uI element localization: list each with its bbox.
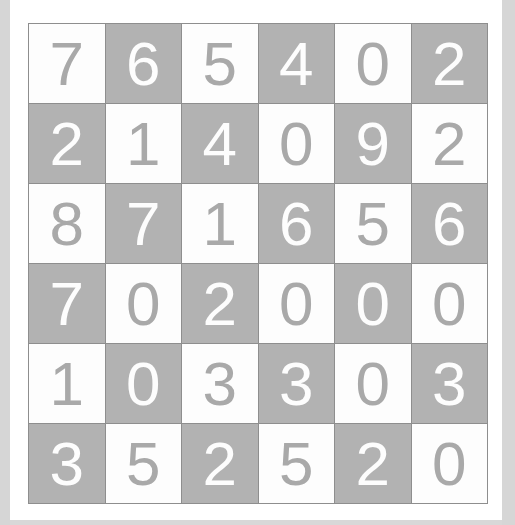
grid-cell-r5-c4[interactable]: 3 bbox=[258, 344, 335, 424]
grid-cell-r1-c6[interactable]: 2 bbox=[411, 24, 488, 104]
grid-card: 6 x 6 Grid 76540221409287165670200010330… bbox=[10, 0, 502, 520]
grid-cell-r3-c4[interactable]: 6 bbox=[258, 184, 335, 264]
grid-cell-r5-c3[interactable]: 3 bbox=[182, 344, 259, 424]
grid-row: 871656 bbox=[29, 184, 488, 264]
grid-row: 214092 bbox=[29, 104, 488, 184]
grid-cell-r2-c1[interactable]: 2 bbox=[29, 104, 106, 184]
grid-cell-r4-c1[interactable]: 7 bbox=[29, 264, 106, 344]
grid-cell-r6-c2[interactable]: 5 bbox=[105, 424, 182, 504]
digit-grid-body: 765402214092871656702000103303352520 bbox=[29, 24, 488, 504]
grid-cell-r2-c6[interactable]: 2 bbox=[411, 104, 488, 184]
grid-cell-r5-c2[interactable]: 0 bbox=[105, 344, 182, 424]
grid-cell-r3-c3[interactable]: 1 bbox=[182, 184, 259, 264]
grid-cell-r2-c5[interactable]: 9 bbox=[335, 104, 412, 184]
page-gutter-right bbox=[502, 0, 515, 525]
grid-cell-r4-c2[interactable]: 0 bbox=[105, 264, 182, 344]
grid-row: 103303 bbox=[29, 344, 488, 424]
grid-cell-r5-c6[interactable]: 3 bbox=[411, 344, 488, 424]
page-title: 6 x 6 Grid bbox=[28, 0, 95, 3]
grid-cell-r1-c3[interactable]: 5 bbox=[182, 24, 259, 104]
grid-cell-r4-c3[interactable]: 2 bbox=[182, 264, 259, 344]
grid-cell-r6-c5[interactable]: 2 bbox=[335, 424, 412, 504]
grid-cell-r1-c5[interactable]: 0 bbox=[335, 24, 412, 104]
grid-cell-r1-c4[interactable]: 4 bbox=[258, 24, 335, 104]
grid-cell-r6-c6[interactable]: 0 bbox=[411, 424, 488, 504]
page-shell: 6 x 6 Grid 76540221409287165670200010330… bbox=[0, 0, 515, 525]
grid-row: 702000 bbox=[29, 264, 488, 344]
grid-cell-r4-c6[interactable]: 0 bbox=[411, 264, 488, 344]
grid-row: 765402 bbox=[29, 24, 488, 104]
grid-cell-r3-c2[interactable]: 7 bbox=[105, 184, 182, 264]
grid-cell-r3-c6[interactable]: 6 bbox=[411, 184, 488, 264]
digit-grid: 765402214092871656702000103303352520 bbox=[28, 23, 488, 504]
grid-cell-r3-c1[interactable]: 8 bbox=[29, 184, 106, 264]
grid-cell-r2-c2[interactable]: 1 bbox=[105, 104, 182, 184]
grid-cell-r5-c5[interactable]: 0 bbox=[335, 344, 412, 424]
grid-cell-r5-c1[interactable]: 1 bbox=[29, 344, 106, 424]
grid-cell-r1-c1[interactable]: 7 bbox=[29, 24, 106, 104]
grid-row: 352520 bbox=[29, 424, 488, 504]
grid-cell-r2-c3[interactable]: 4 bbox=[182, 104, 259, 184]
page-gutter-left bbox=[0, 0, 10, 525]
grid-cell-r6-c1[interactable]: 3 bbox=[29, 424, 106, 504]
grid-cell-r1-c2[interactable]: 6 bbox=[105, 24, 182, 104]
grid-cell-r3-c5[interactable]: 5 bbox=[335, 184, 412, 264]
grid-cell-r2-c4[interactable]: 0 bbox=[258, 104, 335, 184]
grid-cell-r4-c5[interactable]: 0 bbox=[335, 264, 412, 344]
grid-cell-r6-c3[interactable]: 2 bbox=[182, 424, 259, 504]
grid-cell-r4-c4[interactable]: 0 bbox=[258, 264, 335, 344]
grid-cell-r6-c4[interactable]: 5 bbox=[258, 424, 335, 504]
